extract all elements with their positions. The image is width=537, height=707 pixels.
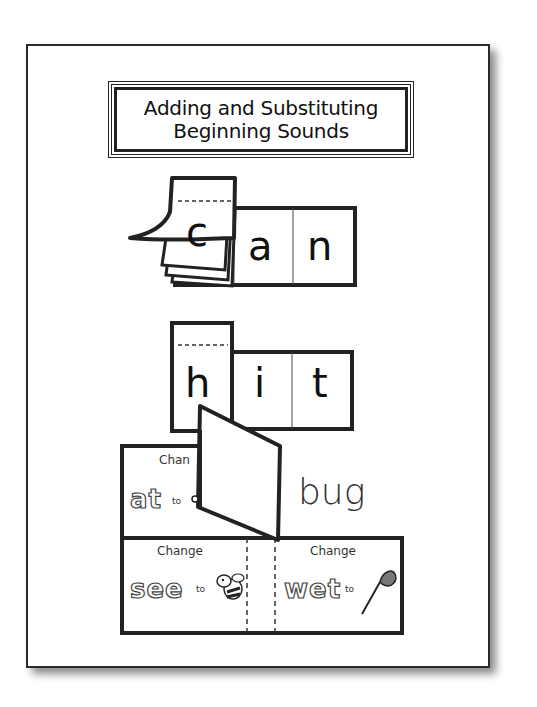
cat-icon xyxy=(192,496,198,502)
card-top-left-label: Chan xyxy=(159,453,190,467)
card-top-right-word: bug xyxy=(298,471,365,512)
example1-diagram xyxy=(0,0,537,707)
card-top-left-to: to xyxy=(172,496,181,506)
card-top-left-word: at xyxy=(130,486,162,512)
card-bottom-left-to: to xyxy=(196,584,205,594)
letter-a: a xyxy=(248,226,273,266)
letter-n: n xyxy=(307,226,332,266)
flap-letter[interactable]: c xyxy=(186,212,208,252)
card-bottom-right-word: wet xyxy=(284,576,341,602)
letter-i: i xyxy=(254,363,265,403)
card-bottom-right-label: Change xyxy=(310,544,356,558)
letter-h[interactable]: h xyxy=(185,363,210,403)
card-bottom-right-to: to xyxy=(345,584,354,594)
card-bottom-left-label: Change xyxy=(157,544,203,558)
card-bottom-left-word: see xyxy=(130,576,184,602)
letter-t: t xyxy=(312,363,328,403)
